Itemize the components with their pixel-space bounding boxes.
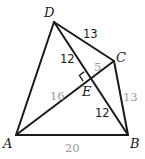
right-angle-marker [79,72,84,81]
length-label-ec: 5 [94,60,101,74]
quadrilateral-diagram: D C E A B 13 12 5 16 13 12 20 [0,0,145,159]
length-label-ab: 20 [65,141,80,155]
vertex-label-d: D [43,5,55,20]
edge-da [16,22,54,135]
length-label-cd: 13 [83,27,98,41]
length-label-eb: 12 [95,106,110,120]
length-label-de: 12 [60,52,75,66]
vertex-label-c: C [116,50,126,65]
length-label-bc: 13 [123,90,138,104]
length-label-ae: 16 [50,89,65,103]
vertex-label-a: A [2,136,12,151]
vertex-label-e: E [81,84,92,99]
vertex-label-b: B [129,136,140,151]
